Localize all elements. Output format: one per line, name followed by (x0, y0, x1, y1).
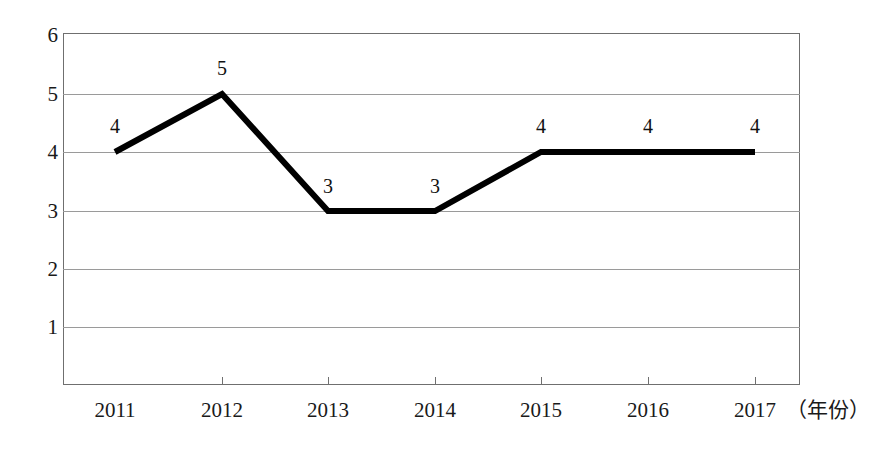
y-axis-tick-label-4: 4 (18, 142, 58, 163)
y-axis-tick-label-5: 5 (18, 84, 58, 105)
x-axis-label-2013: 2013 (283, 398, 373, 422)
x-axis-label-2015: 2015 (496, 398, 586, 422)
x-axis-label-2011: 2011 (70, 398, 160, 422)
gridline-4 (63, 152, 800, 153)
x-axis-tick-2012 (222, 377, 223, 385)
x-axis-tick-2017 (755, 377, 756, 385)
x-axis-tick-2016 (648, 377, 649, 385)
data-label-2016: 4 (628, 116, 668, 136)
x-axis-tick-2013 (328, 377, 329, 385)
x-axis-label-2014: 2014 (390, 398, 480, 422)
data-label-2017: 4 (735, 116, 775, 136)
x-axis-title: （年份） (786, 398, 870, 422)
data-label-2012: 5 (202, 58, 242, 78)
x-axis-tick-2015 (541, 377, 542, 385)
plot-area-frame (63, 33, 800, 385)
data-label-2015: 4 (521, 116, 561, 136)
data-label-2013: 3 (308, 176, 348, 196)
gridline-2 (63, 269, 800, 270)
data-label-2011: 4 (95, 116, 135, 136)
line-chart: 6 5 4 3 2 1 4 5 3 3 4 4 4 2011 2012 2013… (0, 0, 872, 454)
data-label-2014: 3 (415, 176, 455, 196)
y-axis-tick-label-6: 6 (18, 25, 58, 46)
y-axis-tick-label-2: 2 (18, 259, 58, 280)
x-axis-tick-2014 (435, 377, 436, 385)
x-axis-label-2016: 2016 (603, 398, 693, 422)
x-axis-label-2012: 2012 (177, 398, 267, 422)
y-axis-tick-label-3: 3 (18, 201, 58, 222)
gridline-3 (63, 211, 800, 212)
gridline-5 (63, 94, 800, 95)
y-axis-tick-label-1: 1 (18, 317, 58, 338)
gridline-1 (63, 327, 800, 328)
